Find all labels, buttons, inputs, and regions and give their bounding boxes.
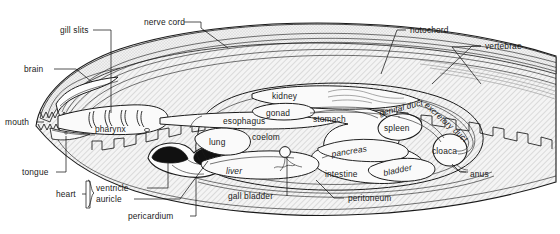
label-gill-slits: gill slits: [60, 25, 89, 35]
label-kidney: kidney: [272, 91, 298, 101]
label-auricle: auricle: [96, 194, 122, 204]
label-nerve-cord: nerve cord: [144, 17, 185, 27]
label-gonad: gonad: [266, 108, 290, 118]
label-liver: liver: [226, 166, 243, 176]
label-brain: brain: [24, 64, 44, 74]
label-pharynx: pharynx: [95, 124, 127, 134]
label-cloaca: cloaca: [432, 146, 457, 156]
label-heart: heart: [56, 189, 76, 199]
label-gall-bladder: gall bladder: [228, 191, 273, 201]
label-mouth: mouth: [5, 117, 29, 127]
label-peritoneum: peritoneum: [348, 193, 391, 203]
label-lung: lung: [209, 137, 226, 147]
label-tongue: tongue: [22, 167, 49, 177]
label-stomach: stomach: [313, 114, 346, 124]
gall-bladder-organ: [280, 147, 291, 158]
label-notochord: notochord: [410, 25, 449, 35]
label-esophagus: esophagus: [223, 116, 265, 126]
label-spleen: spleen: [384, 123, 410, 133]
label-intestine: intestine: [325, 169, 358, 179]
label-vertebrae: vertebrae: [485, 41, 522, 51]
label-pericardium: pericardium: [128, 211, 173, 221]
label-coelom: coelom: [252, 132, 280, 142]
label-ventricle: ventricle: [96, 183, 129, 193]
label-anus: anus: [470, 169, 489, 179]
anatomy-diagram: gill slits nerve cord notochord vertebra…: [0, 0, 560, 234]
